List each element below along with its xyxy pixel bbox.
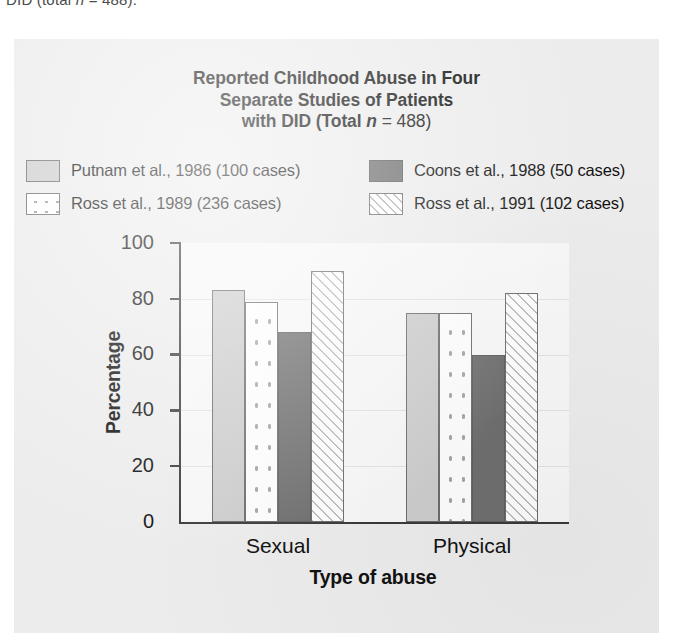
bar-physical-ross-1989[interactable] [439,313,472,522]
y-axis-title-text: Percentage [102,331,125,434]
y-tick-40: 40 [170,409,181,411]
y-tick-label-80: 80 [132,286,154,309]
x-axis-title: Type of abuse [179,566,567,589]
y-tick-label-100: 100 [121,230,154,253]
bar-physical-putnam-1986[interactable] [406,313,439,522]
bar-physical-ross-1991[interactable] [505,293,538,522]
bar-sexual-coons-1988[interactable] [278,332,311,522]
y-tick-60: 60 [170,353,181,355]
bar-sexual-putnam-1986[interactable] [212,290,245,522]
bar-sexual-ross-1989[interactable] [245,302,278,522]
figure-panel: Reported Childhood Abuse in Four Separat… [14,39,659,633]
page-cutoff-text: DID (total n = 488). [6,0,137,8]
y-tick-label-40: 40 [132,398,154,421]
bar-physical-coons-1988[interactable] [472,355,505,522]
y-axis-title: Percentage [62,243,165,522]
y-tick-label-20: 20 [132,454,154,477]
y-tick-20: 20 [170,465,181,467]
bars-sexual [212,243,344,522]
y-tick-label-60: 60 [132,342,154,365]
bar-sexual-ross-1991[interactable] [311,271,344,522]
bar-group-physical: Physical [375,243,569,522]
bars-physical [406,243,538,522]
bar-groups: Sexual Physical [181,243,569,522]
cutoff-mask [0,8,673,34]
y-tick-80: 80 [170,298,181,300]
x-tick-label-sexual: Sexual [246,534,310,558]
plot-area: 100 80 60 40 20 0 [179,243,569,524]
y-tick-label-0: 0 [143,509,154,532]
bar-group-sexual: Sexual [181,243,375,522]
y-tick-100: 100 [170,242,181,244]
x-tick-label-physical: Physical [433,534,511,558]
plot-wrapper: Percentage 100 80 60 40 20 [14,39,659,633]
